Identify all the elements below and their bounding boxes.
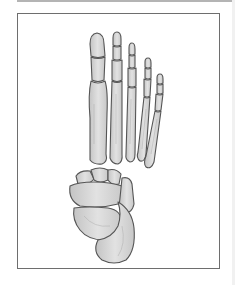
hallux-bones — [89, 33, 107, 164]
right-edge-strip — [232, 0, 235, 285]
top-divider — [17, 0, 235, 2]
foot-skeleton-illustration — [18, 14, 221, 270]
tarsal-bones — [70, 168, 134, 212]
figure-frame — [17, 13, 220, 269]
